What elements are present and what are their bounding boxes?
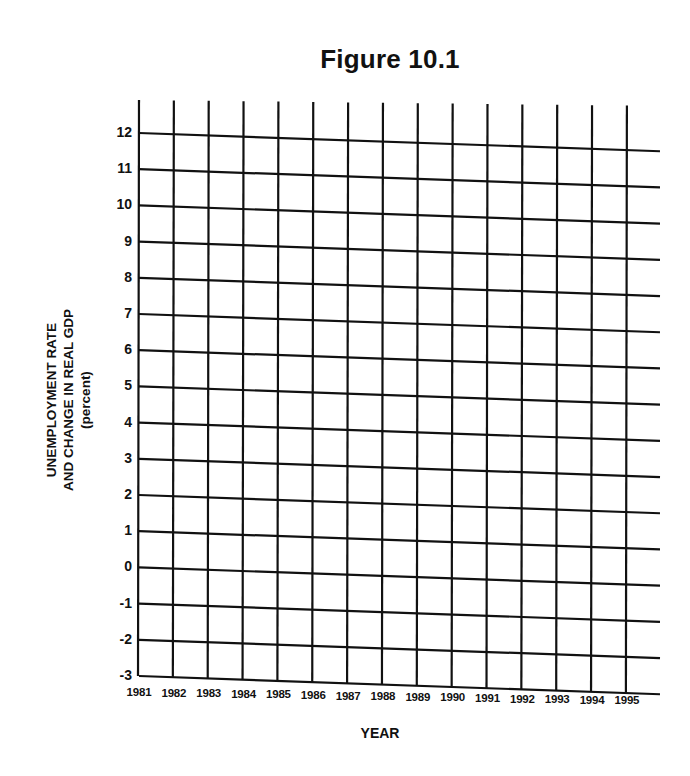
y-tick-label: 11 [92,160,132,176]
gridline-horizontal [139,604,660,622]
y-axis-title-line-1: UNEMPLOYMENT RATE [43,250,60,550]
gridline-horizontal [139,314,660,332]
y-tick-label: 4 [92,414,132,430]
gridline-vertical [277,102,278,681]
gridline-horizontal [139,495,660,513]
y-tick-label: 1 [92,522,132,538]
gridline-horizontal [139,205,660,223]
gridline-vertical [452,104,453,687]
x-axis-title: YEAR [340,725,420,741]
y-tick-label: 2 [92,486,132,502]
y-tick-label: 8 [92,269,132,285]
y-tick-label: 10 [92,196,132,212]
gridline-horizontal [139,242,660,260]
gridline-horizontal [139,531,660,549]
gridline-horizontal [139,567,660,585]
gridline-vertical [347,102,348,683]
y-tick-label: 0 [92,558,132,574]
y-axis-title: UNEMPLOYMENT RATE AND CHANGE IN REAL GDP… [43,250,94,550]
y-tick-label: -1 [92,595,132,611]
gridline-vertical [173,100,174,677]
gridline-vertical [591,105,592,692]
gridline-vertical [521,104,522,689]
x-tick-label: 1995 [607,694,647,706]
y-axis-title-line-2: AND CHANGE IN REAL GDP [60,250,77,550]
gridline-vertical [208,101,209,679]
gridline-vertical [312,102,313,682]
gridline-horizontal [139,459,660,477]
gridline-vertical [487,104,488,688]
y-tick-label: 3 [92,450,132,466]
y-axis-title-line-3: (percent) [77,250,94,550]
gridline-horizontal [139,278,660,296]
gridline-vertical [417,103,418,686]
gridline-horizontal [139,423,660,441]
gridline-vertical [243,101,244,679]
gridline-horizontal [139,169,660,187]
y-tick-label: 7 [92,305,132,321]
gridline-horizontal [139,133,660,151]
y-tick-label: 5 [92,377,132,393]
gridline-vertical [138,100,139,676]
gridline-vertical [382,103,383,685]
y-tick-label: 6 [92,341,132,357]
y-tick-label: 12 [92,124,132,140]
gridline-vertical [556,105,557,691]
y-tick-label: -3 [92,667,132,683]
y-tick-label: 9 [92,233,132,249]
gridline-horizontal [139,386,660,404]
y-tick-label: -2 [92,631,132,647]
gridline-horizontal [139,350,660,368]
gridline-horizontal [139,640,660,658]
gridline-vertical [626,106,627,693]
